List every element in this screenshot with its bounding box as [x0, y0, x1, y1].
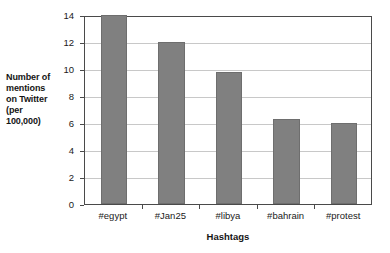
y-tick-label: 10 — [52, 64, 74, 75]
y-tick-label: 0 — [52, 199, 74, 210]
x-tick-label: #libya — [199, 210, 257, 221]
y-tick-label: 6 — [52, 118, 74, 129]
y-tick-mark — [80, 178, 84, 179]
plot-area — [84, 16, 372, 205]
y-axis-title-line: (per — [6, 105, 68, 116]
y-tick-mark — [80, 43, 84, 44]
bar — [273, 119, 299, 204]
y-tick-mark — [80, 151, 84, 152]
y-tick-label: 14 — [52, 10, 74, 21]
bar-chart: Number of mentions on Twitter (per 100,0… — [0, 0, 390, 253]
bar — [101, 15, 127, 204]
y-tick-label: 8 — [52, 91, 74, 102]
x-tick-mark — [142, 205, 143, 209]
y-tick-label: 2 — [52, 172, 74, 183]
bar — [158, 42, 184, 204]
y-tick-mark — [80, 97, 84, 98]
bar — [216, 72, 242, 204]
x-tick-mark — [257, 205, 258, 209]
y-tick-label: 12 — [52, 37, 74, 48]
y-tick-label: 4 — [52, 145, 74, 156]
y-tick-mark — [80, 16, 84, 17]
x-tick-mark — [199, 205, 200, 209]
x-axis-title: Hashtags — [84, 231, 372, 242]
x-tick-label: #bahrain — [257, 210, 315, 221]
gridline — [85, 43, 371, 44]
x-tick-label: #protest — [314, 210, 372, 221]
x-tick-label: #egypt — [84, 210, 142, 221]
x-tick-mark — [314, 205, 315, 209]
y-tick-mark — [80, 70, 84, 71]
y-tick-mark — [80, 205, 84, 206]
bar — [331, 123, 357, 204]
x-tick-label: #Jan25 — [142, 210, 200, 221]
y-tick-mark — [80, 124, 84, 125]
